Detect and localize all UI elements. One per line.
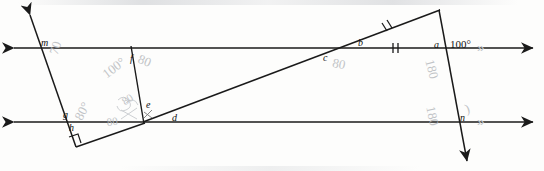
- right-angle-marker: [69, 134, 81, 143]
- pencil-work-80-c: 80: [331, 56, 346, 71]
- geometry-diagram-canvas: m f a b c d e g h n 100° 70 100° 80 80 1…: [0, 0, 544, 171]
- angle-label-d: d: [172, 113, 177, 123]
- angle-label-b: b: [358, 38, 363, 48]
- angle-label-a: a: [434, 40, 439, 50]
- diagram-svg: [0, 0, 544, 171]
- angle-arc-e: [144, 110, 152, 118]
- parallel-mark-bottom: »: [477, 115, 484, 128]
- pencil-work-180-n: 180: [424, 105, 441, 127]
- angle-label-c: c: [323, 53, 327, 63]
- parallel-mark-top: »: [477, 41, 484, 54]
- diagonal-long: [143, 10, 440, 122]
- angle-label-f: f: [130, 54, 133, 64]
- angle-label-e: e: [146, 100, 150, 110]
- angle-label-n: n: [460, 113, 465, 123]
- angle-label-h: h: [69, 123, 74, 133]
- transversal-right: [439, 10, 467, 161]
- pencil-work-80-d: 80: [106, 115, 118, 127]
- angle-label-g: g: [63, 110, 68, 120]
- given-angle-100: 100°: [450, 39, 471, 50]
